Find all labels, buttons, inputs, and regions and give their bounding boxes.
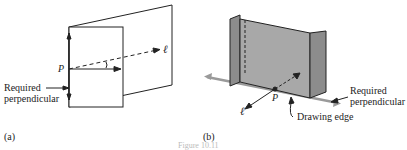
required-label-b: Required bbox=[350, 85, 387, 96]
line-l-label-b: ℓ bbox=[240, 106, 245, 117]
axis-arrow-left-icon bbox=[204, 73, 212, 80]
required-label-a: Required bbox=[4, 82, 41, 93]
edge-arrow-icon bbox=[289, 97, 294, 104]
line-l-solid bbox=[248, 89, 275, 107]
point-p-label-b: P bbox=[272, 92, 278, 103]
left-fin bbox=[230, 15, 240, 86]
drawing-edge-pointer bbox=[290, 103, 293, 117]
pointer-b-arrow-icon bbox=[331, 98, 338, 103]
right-fin bbox=[310, 31, 326, 98]
panel-a-diagram bbox=[46, 5, 172, 107]
point-p-label-a: P bbox=[58, 63, 64, 74]
perpendicular-label-a: perpendicular bbox=[4, 93, 59, 104]
drawing-edge-label: Drawing edge bbox=[297, 111, 353, 122]
pointer-arrow-icon bbox=[63, 86, 69, 90]
arrow-l-down-icon bbox=[245, 103, 252, 109]
point-p bbox=[273, 87, 277, 91]
figure-caption: Figure 10.11 bbox=[178, 141, 219, 150]
perpendicular-label-b: perpendicular bbox=[350, 96, 405, 107]
figure-canvas bbox=[0, 0, 407, 150]
line-l-label-a: ℓ bbox=[163, 44, 168, 55]
panel-a-label: (a) bbox=[4, 131, 15, 142]
arrow-l-icon bbox=[153, 48, 160, 53]
